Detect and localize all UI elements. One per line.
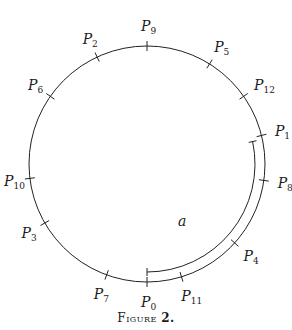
label-p0: P0 <box>140 294 156 312</box>
label-p4: P4 <box>243 248 259 266</box>
tick-p8 <box>259 180 269 181</box>
caption-prefix: Figure <box>117 311 156 325</box>
tick-p12 <box>240 93 248 99</box>
label-p6: P6 <box>27 77 43 95</box>
caption-number: 2. <box>161 311 175 325</box>
point-labels: P0P1P2P3P4P5P6P7P8P9P10P11P12 <box>3 18 292 312</box>
arc-end-ticks <box>147 141 257 276</box>
arc-a <box>147 142 255 272</box>
main-circle <box>29 46 265 282</box>
point-ticks <box>25 41 269 287</box>
label-p11: P11 <box>180 288 202 306</box>
label-p12: P12 <box>253 77 275 95</box>
tick-p10 <box>25 178 35 179</box>
tick-p3 <box>40 221 49 226</box>
circle-diagram: P0P1P2P3P4P5P6P7P8P9P10P11P12 a Figure 2… <box>0 0 292 330</box>
label-p8: P8 <box>277 175 292 193</box>
label-p2: P2 <box>82 31 98 49</box>
figure-caption: Figure 2. <box>117 311 174 325</box>
label-p5: P5 <box>213 39 229 57</box>
tick-p6 <box>46 93 54 99</box>
tick-p2 <box>95 53 99 62</box>
tick-p5 <box>207 60 212 68</box>
label-p1: P1 <box>274 123 290 141</box>
label-p10: P10 <box>3 173 25 191</box>
label-p9: P9 <box>140 18 156 36</box>
arc-label: a <box>178 213 186 229</box>
label-p3: P3 <box>20 225 36 243</box>
label-p7: P7 <box>93 286 109 304</box>
